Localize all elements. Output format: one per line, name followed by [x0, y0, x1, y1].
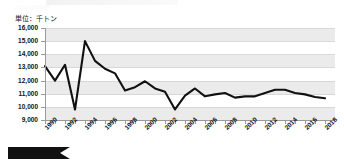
- point-banner-label: POINT: [14, 2, 40, 9]
- y-axis-tick-label: 16,000: [18, 24, 38, 31]
- plot-area: [45, 28, 335, 120]
- line-chart-figure: 単位：千トン 16,00015,00014,00013,00012,00011,…: [0, 0, 344, 140]
- y-axis-tick-label: 11,000: [18, 90, 38, 97]
- data-series-line: [45, 28, 335, 120]
- y-axis-tick-label: 14,000: [18, 50, 38, 57]
- y-axis-tick-label: 15,000: [18, 37, 38, 44]
- y-axis-tick: 15,000: [41, 41, 45, 42]
- y-axis-tick-label: 13,000: [18, 63, 38, 70]
- y-axis-tick: 10,000: [41, 107, 45, 108]
- y-axis-tick-label: 9,000: [22, 116, 38, 123]
- point-banner: [8, 147, 70, 159]
- y-axis-tick: 16,000: [41, 28, 45, 29]
- y-axis-tick: 13,000: [41, 67, 45, 68]
- y-axis-tick: 11,000: [41, 94, 45, 95]
- y-axis-tick: 12,000: [41, 81, 45, 82]
- unit-label: 単位：千トン: [15, 13, 57, 23]
- y-axis-tick-label: 12,000: [18, 77, 38, 84]
- y-axis-tick-label: 10,000: [18, 103, 38, 110]
- y-axis-tick: 14,000: [41, 54, 45, 55]
- y-axis: [45, 28, 46, 121]
